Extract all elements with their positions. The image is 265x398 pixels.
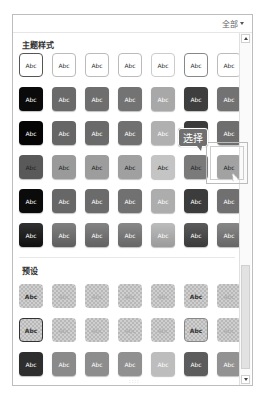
arrow-up-icon bbox=[244, 37, 248, 40]
theme-style-tile[interactable]: Abc bbox=[118, 223, 142, 247]
theme-style-tile[interactable]: Abc bbox=[19, 223, 43, 247]
theme-style-tile[interactable]: Abc bbox=[19, 189, 43, 213]
theme-style-tile[interactable]: Abc bbox=[151, 155, 175, 179]
scroll-down-button[interactable] bbox=[241, 375, 250, 384]
theme-style-tile[interactable]: Abc bbox=[184, 223, 208, 247]
preset-style-tile[interactable]: Abc bbox=[184, 284, 208, 308]
filter-dropdown[interactable]: 全部 bbox=[222, 18, 244, 29]
theme-style-tile[interactable]: Abc bbox=[184, 189, 208, 213]
preset-style-tile[interactable]: Abc bbox=[118, 318, 142, 342]
preset-style-tile[interactable]: Abc bbox=[52, 352, 76, 376]
theme-style-tile[interactable]: Abc bbox=[184, 53, 208, 77]
theme-style-tile[interactable]: Abc bbox=[52, 121, 76, 145]
theme-style-tile[interactable]: Abc bbox=[52, 223, 76, 247]
theme-style-tile[interactable]: Abc bbox=[118, 53, 142, 77]
preset-style-tile[interactable]: Abc bbox=[151, 352, 175, 376]
preset-style-tile[interactable]: Abc bbox=[118, 352, 142, 376]
theme-style-tile[interactable]: Abc bbox=[151, 87, 175, 111]
preset-style-tile[interactable]: Abc bbox=[85, 284, 109, 308]
preset-style-tile[interactable]: Abc bbox=[52, 318, 76, 342]
preset-style-tile[interactable]: Abc bbox=[19, 318, 43, 342]
preset-style-tile[interactable]: Abc bbox=[184, 318, 208, 342]
preset-style-tile[interactable]: Abc bbox=[118, 284, 142, 308]
preset-style-tile[interactable]: Abc bbox=[217, 318, 239, 342]
theme-style-tile[interactable]: Abc bbox=[19, 155, 43, 179]
theme-style-tile[interactable]: Abc bbox=[19, 53, 43, 77]
theme-style-tile[interactable]: Abc bbox=[85, 155, 109, 179]
theme-style-tile[interactable]: Abc bbox=[151, 189, 175, 213]
theme-style-tile[interactable]: Abc bbox=[151, 121, 175, 145]
preset-style-tile[interactable]: Abc bbox=[19, 284, 43, 308]
preset-style-tile[interactable]: Abc bbox=[85, 352, 109, 376]
section-divider bbox=[19, 257, 235, 258]
theme-style-tile[interactable]: Abc bbox=[19, 87, 43, 111]
theme-style-tile[interactable]: Abc bbox=[52, 87, 76, 111]
theme-style-tile[interactable]: Abc bbox=[85, 189, 109, 213]
vertical-scrollbar[interactable] bbox=[239, 33, 251, 385]
theme-style-tile[interactable]: Abc bbox=[85, 53, 109, 77]
preset-style-tile[interactable]: Abc bbox=[184, 352, 208, 376]
theme-style-tile[interactable]: Abc bbox=[85, 223, 109, 247]
theme-style-tile[interactable]: Abc bbox=[217, 189, 239, 213]
theme-style-tile[interactable]: Abc bbox=[184, 155, 208, 179]
theme-style-tile[interactable]: Abc bbox=[52, 155, 76, 179]
theme-style-tile[interactable]: Abc bbox=[184, 87, 208, 111]
theme-style-tile[interactable]: Abc bbox=[151, 53, 175, 77]
preset-style-tile[interactable]: Abc bbox=[217, 352, 239, 376]
theme-style-tile[interactable]: Abc bbox=[118, 121, 142, 145]
scroll-up-button[interactable] bbox=[241, 34, 250, 43]
theme-style-tile[interactable]: Abc bbox=[85, 87, 109, 111]
section-title-presets: 预设 bbox=[22, 265, 38, 276]
tooltip: 选择 bbox=[178, 128, 208, 147]
theme-style-tile[interactable]: Abc bbox=[217, 223, 239, 247]
theme-style-tile[interactable]: Abc bbox=[52, 189, 76, 213]
gallery-content: 主题样式 预设 AbcAbcAbcAbcAbcAbcAbcAbcAbcAbcAb… bbox=[13, 33, 239, 385]
theme-style-tile[interactable]: Abc bbox=[118, 87, 142, 111]
preset-style-tile[interactable]: Abc bbox=[217, 284, 239, 308]
preset-style-tile[interactable]: Abc bbox=[151, 318, 175, 342]
preset-style-tile[interactable]: Abc bbox=[52, 284, 76, 308]
selected-tile-highlight bbox=[206, 142, 248, 184]
shape-style-gallery: 全部 主题样式 预设 AbcAbcAbcAbcAbcAbcAbcAbcAbcAb… bbox=[12, 14, 253, 386]
theme-style-tile[interactable]: Abc bbox=[118, 155, 142, 179]
theme-style-tile[interactable]: Abc bbox=[151, 223, 175, 247]
arrow-down-icon bbox=[244, 378, 248, 381]
theme-style-tile[interactable]: Abc bbox=[217, 87, 239, 111]
preset-style-tile[interactable]: Abc bbox=[85, 318, 109, 342]
filter-label: 全部 bbox=[222, 18, 238, 29]
scrollbar-thumb[interactable] bbox=[241, 265, 250, 369]
dropdown-triangle-icon bbox=[240, 22, 244, 25]
theme-style-tile[interactable]: Abc bbox=[85, 121, 109, 145]
theme-style-tile[interactable]: Abc bbox=[52, 53, 76, 77]
section-title-theme-styles: 主题样式 bbox=[22, 39, 54, 50]
preset-style-tile[interactable]: Abc bbox=[151, 284, 175, 308]
preset-style-tile[interactable]: Abc bbox=[19, 352, 43, 376]
resize-grip[interactable]: :::: bbox=[129, 378, 140, 384]
theme-style-tile[interactable]: Abc bbox=[118, 189, 142, 213]
theme-style-tile[interactable]: Abc bbox=[19, 121, 43, 145]
gallery-header: 全部 bbox=[13, 15, 252, 33]
theme-style-tile[interactable]: Abc bbox=[217, 53, 239, 77]
